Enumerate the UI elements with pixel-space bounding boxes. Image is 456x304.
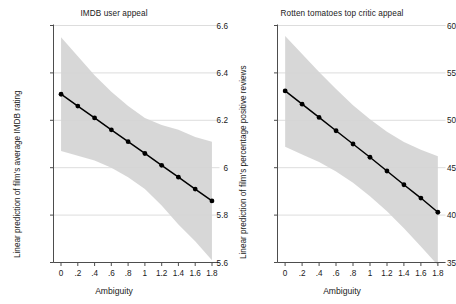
y-axis-tick-label: 5.6 <box>181 258 229 267</box>
x-axis-tick-label: 1 <box>368 269 373 278</box>
x-axis-tick-label: 1.6 <box>189 269 200 278</box>
x-axis-tick-label: .2 <box>299 269 306 278</box>
y-axis-tick-label: 6 <box>181 163 229 172</box>
x-axis-tick-label: 1.4 <box>173 269 184 278</box>
y-axis-tick-label: 6.4 <box>181 68 229 77</box>
y-axis-tick-label: 45 <box>413 163 456 172</box>
x-axis-tick-label: .4 <box>316 269 323 278</box>
x-axis-tick-label: 1 <box>143 269 148 278</box>
chart-panel-imdb: IMDB user appeal Linear prediction of fi… <box>0 0 228 304</box>
x-axis-tick-label: 0 <box>59 269 64 278</box>
margins-plot-figure: IMDB user appeal Linear prediction of fi… <box>0 0 456 304</box>
x-axis-tick-label: 0 <box>283 269 288 278</box>
y-axis-tick-label: 60 <box>413 21 456 30</box>
x-axis-tick-label: 1.4 <box>398 269 409 278</box>
chart-panel-rotten-tomatoes: Rotten tomatoes top critic appeal Linear… <box>228 0 456 304</box>
y-axis-tick-label: 6.6 <box>181 21 229 30</box>
x-axis-tick-label: .8 <box>350 269 357 278</box>
x-axis-tick-label: 1.6 <box>415 269 426 278</box>
x-axis-tick-label: 1.2 <box>156 269 167 278</box>
x-axis-tick-label: 1.8 <box>432 269 443 278</box>
x-axis-tick-label: 1.8 <box>206 269 217 278</box>
y-axis-tick-label: 40 <box>413 211 456 220</box>
x-axis-tick-label: .2 <box>74 269 81 278</box>
y-axis-tick-label: 6.2 <box>181 116 229 125</box>
x-axis-tick-label: .6 <box>108 269 115 278</box>
y-axis-tick-label: 50 <box>413 116 456 125</box>
y-axis-tick-label: 5.8 <box>181 211 229 220</box>
x-axis-tick-label: .4 <box>91 269 98 278</box>
x-axis-tick-label: .8 <box>125 269 132 278</box>
x-axis-tick-label: 1.2 <box>381 269 392 278</box>
y-axis-tick-label: 55 <box>413 68 456 77</box>
y-axis-tick-label: 35 <box>413 258 456 267</box>
x-axis-tick-label: .6 <box>333 269 340 278</box>
